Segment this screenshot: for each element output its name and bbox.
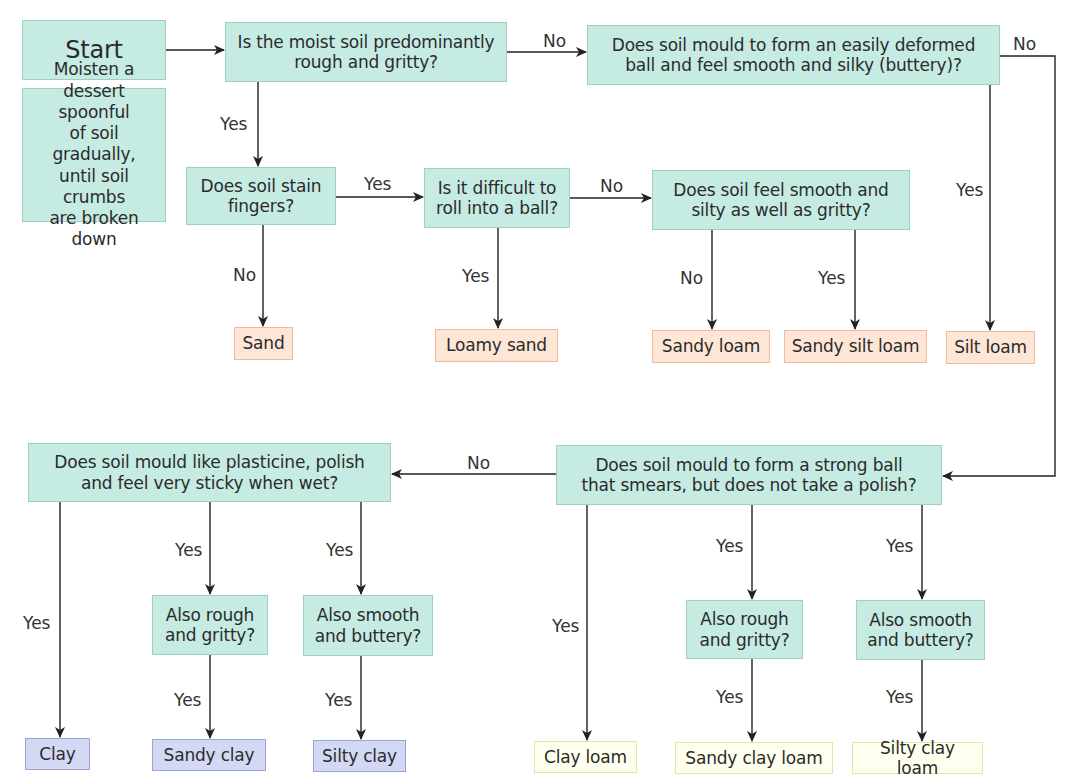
- result-clay: Clay: [25, 738, 90, 770]
- edge-label-q4-no: No: [600, 178, 623, 195]
- question-also-rough-left: Also rough and gritty?: [152, 595, 268, 655]
- edge-label-smooth-right-yes: Yes: [886, 689, 913, 706]
- edge-label-smooth-left-yes: Yes: [325, 692, 352, 709]
- edge-label-q6-yes-clay: Yes: [23, 615, 50, 632]
- question-smooth-silty: Does soil feel smooth and silty as well …: [652, 170, 910, 230]
- question-rough-gritty: Is the moist soil predominantly rough an…: [225, 22, 507, 82]
- question-also-rough-right: Also rough and gritty?: [686, 600, 803, 659]
- result-silty-clay: Silty clay: [313, 740, 406, 772]
- question-easily-deformed: Does soil mould to form an easily deform…: [587, 25, 1000, 85]
- edge-label-q1-yes: Yes: [220, 116, 247, 133]
- edge-label-q6-yes-smooth: Yes: [326, 542, 353, 559]
- soil-texture-flowchart: Start Moisten a dessert spoonful of soil…: [0, 0, 1068, 776]
- instruction-note: Moisten a dessert spoonful of soil gradu…: [22, 88, 166, 222]
- edge-label-rough-left-yes: Yes: [174, 692, 201, 709]
- edge-label-q2-yes: Yes: [956, 182, 983, 199]
- result-loamy-sand: Loamy sand: [435, 329, 558, 362]
- result-clay-loam: Clay loam: [534, 741, 637, 773]
- edge-label-q3-yes: Yes: [364, 176, 391, 193]
- question-stain-fingers: Does soil stain fingers?: [186, 167, 336, 225]
- edge-label-q4-yes: Yes: [462, 268, 489, 285]
- edge-label-q7-yes-smooth: Yes: [886, 538, 913, 555]
- edge-label-q5-yes: Yes: [818, 270, 845, 287]
- edge-label-q7-no: No: [467, 455, 490, 472]
- edge-label-rough-right-yes: Yes: [716, 689, 743, 706]
- edge-label-q7-yes-clay-loam: Yes: [552, 618, 579, 635]
- result-sandy-clay-loam: Sandy clay loam: [675, 742, 833, 774]
- result-silt-loam: Silt loam: [946, 331, 1035, 364]
- result-sandy-silt-loam: Sandy silt loam: [784, 330, 927, 363]
- result-sand: Sand: [234, 327, 293, 360]
- result-sandy-clay: Sandy clay: [152, 739, 266, 771]
- edge-label-q6-yes-rough: Yes: [175, 542, 202, 559]
- result-sandy-loam: Sandy loam: [652, 330, 770, 363]
- question-strong-ball: Does soil mould to form a strong ball th…: [556, 445, 942, 505]
- edge-label-q3-no: No: [233, 267, 256, 284]
- edge-label-q5-no: No: [680, 270, 703, 287]
- edge-label-q7-yes-rough: Yes: [716, 538, 743, 555]
- result-silty-clay-loam: Silty clay loam: [852, 742, 983, 774]
- question-plasticine: Does soil mould like plasticine, polish …: [28, 443, 391, 502]
- question-difficult-roll: Is it difficult to roll into a ball?: [424, 168, 570, 228]
- question-also-smooth-left: Also smooth and buttery?: [303, 595, 433, 656]
- question-also-smooth-right: Also smooth and buttery?: [856, 600, 985, 660]
- edge-label-q2-no: No: [1013, 36, 1036, 53]
- edge-label-q1-no: No: [543, 33, 566, 50]
